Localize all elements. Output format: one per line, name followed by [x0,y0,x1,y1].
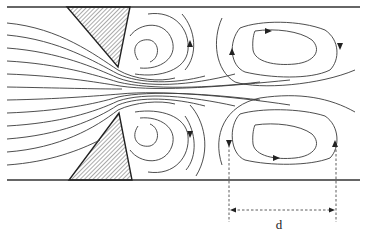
arrow-icon [265,28,272,34]
arrow-icon [337,43,343,50]
upper-wake-spiral [130,13,194,75]
flow-direction-arrows [187,28,343,161]
lower-wake-spiral [130,105,205,176]
bottom-baffle [69,113,132,180]
spacing-label: d [276,217,283,232]
lower-downstream-vortex [219,96,355,165]
top-baffle [67,7,130,67]
arrow-icon [273,155,280,161]
upstream-streamlines [7,23,290,165]
dim-arrow-right-icon [329,208,335,213]
upper-downstream-vortex [216,18,355,86]
arrow-icon [229,48,235,55]
dim-arrow-left-icon [230,208,236,213]
channel-flow-diagram: d [0,0,379,235]
